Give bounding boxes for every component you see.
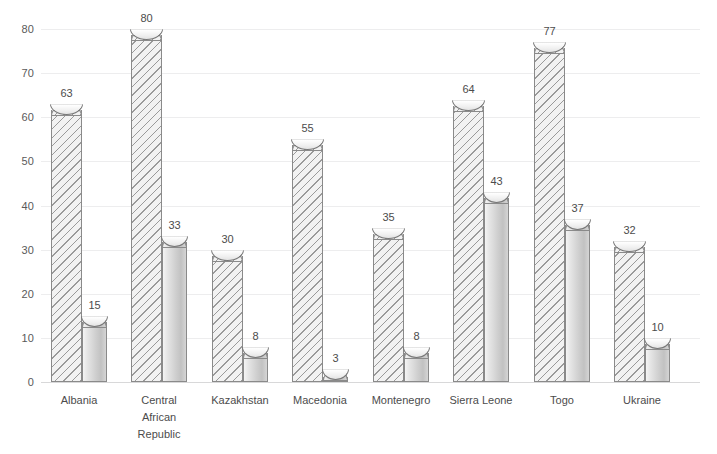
bar-body [82,322,107,382]
bar-series-a-3[interactable] [292,139,323,382]
bar-body [162,242,187,382]
bar-chart: 01020304050607080 6315Albania8033Central… [0,0,717,454]
value-label-series-a-5: 64 [453,84,484,95]
value-label-series-a-4: 35 [373,212,404,223]
x-axis-category-label-7: Ukraine [592,392,692,409]
bar-series-b-0[interactable] [82,316,107,382]
value-label-series-b-6: 37 [565,203,590,214]
bar-series-a-2[interactable] [212,250,243,382]
bar-body [534,48,565,382]
bar-series-b-5[interactable] [484,192,509,382]
bar-series-a-5[interactable] [453,100,484,382]
value-label-series-a-6: 77 [534,26,565,37]
bar-series-b-2[interactable] [243,347,268,382]
bar-body [565,225,590,382]
value-label-series-a-2: 30 [212,234,243,245]
bar-series-b-1[interactable] [162,236,187,382]
value-label-series-a-0: 63 [51,88,82,99]
bar-body [51,110,82,382]
bar-body [212,256,243,382]
value-label-series-b-7: 10 [645,322,670,333]
plot-area: 6315Albania8033Central African Republic3… [0,0,717,454]
bar-body [453,106,484,382]
bar-series-b-7[interactable] [645,338,670,382]
value-label-series-b-1: 33 [162,220,187,231]
bar-series-a-6[interactable] [534,42,565,382]
bar-body [131,35,162,382]
value-label-series-b-4: 8 [404,331,429,342]
bar-body [484,198,509,382]
bar-series-a-1[interactable] [131,29,162,382]
value-label-series-a-7: 32 [614,225,645,236]
bar-body [292,145,323,382]
bar-series-a-7[interactable] [614,241,645,382]
bar-series-b-4[interactable] [404,347,429,382]
value-label-series-b-5: 43 [484,176,509,187]
value-label-series-a-1: 80 [131,13,162,24]
bar-body [373,234,404,382]
bar-series-b-3[interactable] [323,369,348,382]
bar-body [614,247,645,382]
bar-series-a-0[interactable] [51,104,82,382]
bar-series-a-4[interactable] [373,228,404,382]
value-label-series-b-0: 15 [82,300,107,311]
value-label-series-b-3: 3 [323,353,348,364]
value-label-series-a-3: 55 [292,123,323,134]
bar-series-b-6[interactable] [565,219,590,382]
value-label-series-b-2: 8 [243,331,268,342]
